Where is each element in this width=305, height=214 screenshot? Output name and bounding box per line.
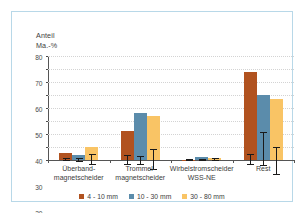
legend-item[interactable]: 4 - 10 mm [79,193,118,200]
bar[interactable] [72,155,85,160]
bar[interactable] [270,99,283,160]
bar-group-bars [233,56,295,160]
plot-area: 01020304050607080 [48,56,294,160]
error-bar-cap-bottom [76,161,83,162]
category-label-line: WSS-NE [149,173,254,182]
bar[interactable] [59,153,72,160]
legend-label: 30 - 80 mm [190,193,224,200]
legend-item[interactable]: 30 - 80 mm [182,193,224,200]
bar[interactable] [244,72,257,160]
legend-swatch [182,194,187,199]
y-tick-label: 80 [35,54,42,61]
bar-group [48,56,110,160]
error-bar-cap-top [89,154,96,155]
x-axis-category-label: Rest [211,164,305,173]
legend-swatch [129,194,134,199]
error-bar-cap-bottom [199,160,206,161]
legend-swatch [79,194,84,199]
y-axis-title-line-2: Ma.-% [36,41,57,50]
y-tick-label: 70 [35,80,42,87]
x-tick-mark [171,160,172,163]
error-bar [263,132,264,166]
y-axis-title-line-1: Anteil [36,31,55,40]
bar[interactable] [195,157,208,160]
y-tick-label: 30 [35,184,42,191]
error-bar-cap-top [150,149,157,150]
category-label-line: Rest [211,164,305,173]
error-bar-cap-bottom [273,174,280,175]
y-tick-label: 20 [35,210,42,214]
legend-label: 10 - 30 mm [137,193,171,200]
bar[interactable] [257,95,270,160]
bar[interactable] [134,113,147,160]
bar-group-bars [110,56,172,160]
error-bar-cap-top [260,132,267,133]
bar[interactable] [85,147,98,160]
error-bar [201,159,202,161]
y-tick-label: 60 [35,106,42,113]
bar[interactable] [208,158,221,160]
error-bar-cap-top [124,155,131,156]
error-bar-cap-top [76,158,83,159]
error-bar-cap-bottom [186,160,193,161]
legend-item[interactable]: 10 - 30 mm [129,193,171,200]
x-tick-mark [110,160,111,163]
bar[interactable] [121,131,134,160]
error-bar-cap-bottom [212,160,219,161]
bar-group [171,56,233,160]
error-bar-cap-top [247,154,254,155]
x-tick-mark [233,160,234,163]
legend-label: 4 - 10 mm [87,193,118,200]
x-tick-mark [48,160,49,163]
chart-frame: Anteil Ma.-% 01020304050607080 Überband-… [11,11,293,202]
bar-group [110,56,172,160]
error-bar-cap-top [63,158,70,159]
bar-group-bars [171,56,233,160]
y-tick-label: 50 [35,132,42,139]
error-bar-cap-top [212,158,219,159]
error-bar-cap-bottom [63,160,70,161]
chart-legend: 4 - 10 mm10 - 30 mm30 - 80 mm [12,193,292,200]
error-bar-cap-top [273,147,280,148]
bar[interactable] [147,116,160,160]
error-bar [214,158,215,161]
x-tick-mark [294,160,295,163]
bar-group-bars [48,56,110,160]
chart-figure: Anteil Ma.-% 01020304050607080 Überband-… [0,0,305,213]
error-bar [78,158,79,161]
bar[interactable] [182,160,195,161]
error-bar-cap-top [137,156,144,157]
bar-group [233,56,295,160]
error-bar [65,159,66,161]
